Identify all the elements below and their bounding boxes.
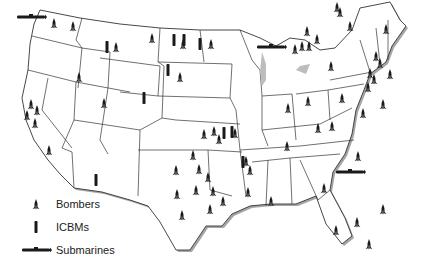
legend-item-bombers: Bombers — [18, 196, 100, 212]
icbm-icon — [231, 126, 234, 138]
icbm-icon — [242, 156, 245, 168]
bomber-icon — [380, 99, 387, 110]
icbm-icon — [18, 220, 54, 234]
bomber-icon — [355, 151, 362, 162]
icbm-icon — [143, 92, 146, 104]
bomber-icon — [360, 108, 367, 119]
legend-label: Bombers — [56, 198, 100, 210]
bomber-icon — [387, 69, 394, 80]
icbm-icon — [106, 41, 109, 53]
bomber-icon — [366, 239, 373, 250]
icbm-icon — [95, 174, 98, 186]
legend-item-icbms: ICBMs — [18, 219, 89, 235]
legend-item-submarines: Submarines — [18, 242, 115, 258]
bomber-icon — [380, 204, 387, 215]
submarine-icon — [18, 246, 54, 254]
bomber-icon — [347, 21, 354, 32]
submarine-icon — [336, 169, 366, 175]
icbm-icon — [183, 34, 186, 46]
icbm-icon — [167, 64, 170, 76]
bomber-icon — [304, 26, 311, 37]
icbm-icon — [199, 38, 202, 50]
legend-label: ICBMs — [56, 221, 89, 233]
bomber-icon — [18, 198, 54, 210]
bomber-icon — [314, 34, 321, 45]
legend-label: Submarines — [56, 244, 115, 256]
icbm-icon — [223, 127, 226, 139]
icbm-icon — [173, 34, 176, 46]
bomber-icon — [354, 217, 361, 228]
